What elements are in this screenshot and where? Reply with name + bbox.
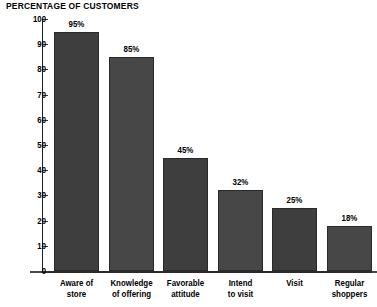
- y-axis-tick-label: 0: [9, 267, 46, 276]
- bar: [218, 190, 263, 271]
- bar-chart: PERCENTAGE OF CUSTOMERS 1009080706050403…: [0, 0, 377, 307]
- bar-value-label: 45%: [153, 146, 217, 155]
- bar: [327, 226, 372, 271]
- x-axis-baseline: [42, 271, 372, 273]
- y-axis-tick-label: 10: [9, 242, 46, 251]
- bar-value-label: 95%: [44, 20, 108, 29]
- bar: [54, 32, 99, 271]
- bar-value-label: 32%: [208, 178, 272, 187]
- y-axis-tick-label: 50: [9, 141, 46, 150]
- y-axis-tick-label: 70: [9, 91, 46, 100]
- bar: [109, 57, 154, 271]
- plot-area: 1009080706050403020100 95%85%45%32%25%18…: [0, 0, 377, 307]
- y-axis-tick-label: 40: [9, 166, 46, 175]
- bar: [272, 208, 317, 271]
- y-axis-tick-label: 30: [9, 191, 46, 200]
- y-axis-tick-label: 100: [9, 15, 46, 24]
- bar: [163, 158, 208, 271]
- x-axis-category-label: Regular shoppers: [315, 278, 377, 299]
- y-axis-tick-label: 80: [9, 65, 46, 74]
- bar-value-label: 25%: [262, 196, 326, 205]
- y-axis-tick-label: 90: [9, 40, 46, 49]
- y-axis-tick-label: 60: [9, 116, 46, 125]
- bar-value-label: 18%: [317, 214, 377, 223]
- bar-value-label: 85%: [99, 45, 163, 54]
- y-axis-tick-label: 20: [9, 217, 46, 226]
